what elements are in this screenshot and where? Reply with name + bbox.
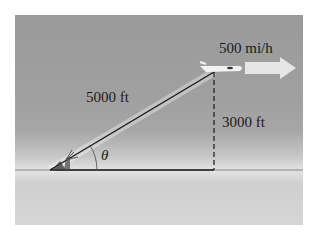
height-label: 3000 ft — [222, 114, 266, 130]
speed-label: 500 mi/h — [219, 40, 273, 56]
hypotenuse-label: 5000 ft — [86, 89, 130, 105]
diagram-canvas: 5000 ft 3000 ft 500 mi/h θ — [0, 0, 330, 235]
triangle-hypotenuse — [50, 72, 214, 170]
velocity-arrow — [245, 57, 296, 79]
angle-theta-label: θ — [101, 147, 109, 163]
airplane-icon — [200, 62, 242, 72]
